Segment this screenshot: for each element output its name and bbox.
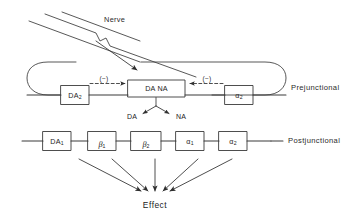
box-alpha2-pre-label: α2 bbox=[235, 92, 242, 99]
nerve-into-terminal-arrow bbox=[96, 41, 137, 70]
transmitter-da-label: DA bbox=[127, 113, 137, 120]
effect-arrow-4 bbox=[163, 159, 198, 191]
box-beta2-subscript: 2 bbox=[147, 143, 150, 149]
box-alpha1-subscript: 1 bbox=[191, 140, 194, 146]
effect-label: Effect bbox=[143, 200, 167, 210]
box-da-na-label: DA NA bbox=[145, 85, 168, 92]
box-beta1-label: β1 bbox=[99, 133, 106, 151]
box-beta2-label: β2 bbox=[143, 133, 150, 151]
inhibition-right-label: (−) bbox=[202, 75, 211, 82]
effect-arrow-1 bbox=[79, 159, 141, 191]
box-alpha2-pre-subscript: 2 bbox=[240, 94, 243, 100]
inhibition-left-label: (−) bbox=[99, 75, 108, 82]
postjunctional-side-label: Postjunctional bbox=[288, 136, 340, 145]
nerve-label: Nerve bbox=[104, 15, 125, 24]
box-alpha2-post-subscript: 2 bbox=[234, 140, 237, 146]
box-da1-text: DA bbox=[50, 137, 60, 146]
effect-arrow-5 bbox=[170, 159, 232, 191]
effect-arrow-2 bbox=[112, 159, 148, 191]
box-da2-label: DA2 bbox=[68, 92, 81, 99]
box-beta1-subscript: 1 bbox=[103, 143, 106, 149]
box-da2-text: DA bbox=[68, 91, 78, 100]
diagram-canvas: Nerve DA2 DA NA α2 (−) (−) DA NA Prejunc… bbox=[0, 0, 348, 221]
prejunctional-side-label: Prejunctional bbox=[291, 83, 339, 92]
box-alpha2-post-label: α2 bbox=[229, 138, 236, 145]
transmitter-release-fork bbox=[143, 98, 169, 114]
box-da-na-text: DA NA bbox=[145, 84, 168, 93]
transmitter-na-label: NA bbox=[176, 113, 186, 120]
box-da1-label: DA1 bbox=[50, 138, 63, 145]
diagram-vector-layer bbox=[0, 0, 348, 221]
box-alpha1-label: α1 bbox=[186, 138, 193, 145]
effect-arrows bbox=[79, 159, 232, 191]
